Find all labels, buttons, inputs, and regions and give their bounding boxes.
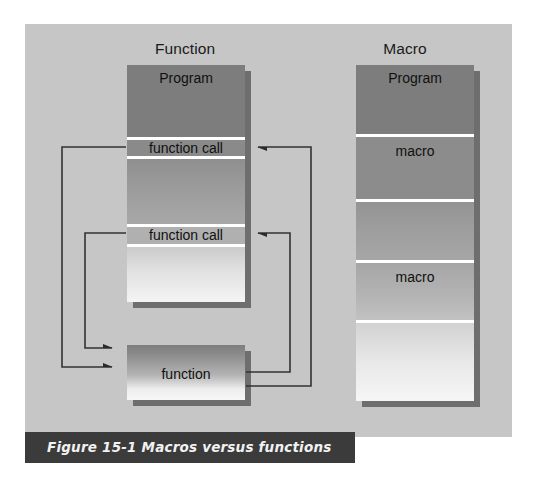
function-segment-program: Program: [127, 65, 245, 137]
function-segment-body-2: [127, 247, 245, 302]
function-segment-program-label: Program: [127, 65, 245, 85]
macro-segment-expansion-1: macro: [356, 137, 474, 199]
figure-canvas: Function Macro Program function call fun…: [0, 0, 537, 479]
function-segment-call-1-label: function call: [127, 140, 245, 155]
column-title-macro: Macro: [345, 40, 465, 58]
macro-segment-body-2: [356, 323, 474, 401]
function-segment-call-2-label: function call: [127, 227, 245, 242]
macro-segment-program: Program: [356, 65, 474, 134]
figure-caption-text: Figure 15-1 Macros versus functions: [47, 439, 331, 455]
macro-segment-body-1: [356, 202, 474, 260]
figure-caption-bar: Figure 15-1 Macros versus functions: [25, 432, 355, 463]
macro-program-box: Program macro macro: [356, 65, 474, 401]
function-callee-label: function: [127, 367, 245, 381]
macro-segment-expansion-1-label: macro: [356, 137, 474, 158]
function-callee-box: function: [127, 345, 245, 400]
function-segment-body-1: [127, 159, 245, 224]
macro-segment-expansion-2-label: macro: [356, 263, 474, 284]
function-segment-call-2: function call: [127, 227, 245, 244]
function-segment-call-1: function call: [127, 140, 245, 156]
macro-segment-expansion-2: macro: [356, 263, 474, 320]
macro-segment-program-label: Program: [356, 65, 474, 85]
function-program-box: Program function call function call: [127, 65, 245, 302]
column-title-function: Function: [120, 40, 250, 58]
